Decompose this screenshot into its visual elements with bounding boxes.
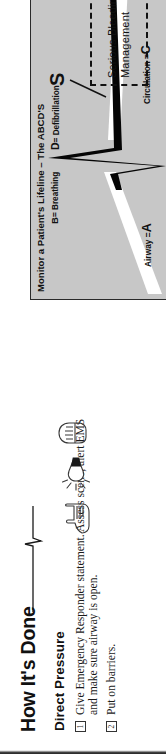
step-text: Put on barriers. [105, 644, 118, 715]
label-serious-bleeding-letter: S [46, 73, 69, 86]
scan-edge-highlight [0, 750, 166, 751]
gloved-fist-icon [56, 418, 90, 448]
callout-line-2: Management [119, 0, 133, 78]
scanned-page: How It's Done Direct Pressure 1 Give Eme… [0, 0, 166, 754]
diagram-title: Monitor a Patient's Lifeline – The ABCD'… [35, 104, 46, 292]
callout-line-1: Serious Bleeding [106, 0, 120, 78]
penlight-icon [60, 456, 92, 492]
gloves-icon [62, 502, 92, 536]
step-number: 2 [106, 721, 117, 732]
serious-bleeding-callout: Serious Bleeding Management [90, 0, 148, 86]
equipment-icon-row [56, 410, 96, 536]
list-item: 2 Put on barriers. [105, 402, 118, 732]
how-its-done-section: How It's Done Direct Pressure 1 Give Eme… [0, 372, 166, 732]
label-breathing: B= Breathing [49, 172, 60, 224]
abcd-lifeline-diagram: Monitor a Patient's Lifeline – The ABCD'… [30, 0, 166, 300]
label-airway: Airway =A [140, 223, 154, 267]
page-title: How It's Done [17, 606, 40, 732]
label-defibrillation: D= Defibrillation [49, 85, 61, 150]
section-subtitle: Direct Pressure [52, 631, 67, 731]
step-number: 1 [75, 721, 86, 732]
ecg-rule-decoration [22, 506, 44, 612]
